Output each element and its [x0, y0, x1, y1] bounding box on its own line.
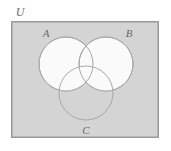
set-label-a: A [42, 27, 50, 39]
venn-diagram-canvas: U A B C [0, 0, 171, 151]
set-label-b: B [126, 27, 133, 39]
universe-label: U [16, 5, 26, 19]
venn-diagram-figure: U A B C [0, 0, 171, 151]
set-label-c: C [82, 124, 90, 136]
